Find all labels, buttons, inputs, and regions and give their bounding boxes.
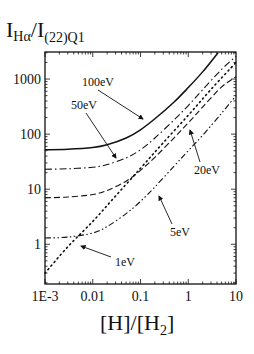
series-20ev (45, 77, 236, 198)
annotation-arrow (159, 196, 172, 224)
annotation-arrow (98, 90, 143, 119)
y-axis-label: IHα/I(22)Q1 (6, 17, 85, 46)
y-tick-label: 1000 (13, 72, 41, 87)
annotation-20ev: 20eV (194, 163, 220, 177)
svg-text:IHα/I(22)Q1: IHα/I(22)Q1 (6, 17, 85, 46)
y-tick-label: 1 (34, 237, 41, 252)
annotation-50ev: 50eV (71, 98, 97, 112)
series-50ev (45, 56, 236, 169)
annotation-arrow (81, 246, 111, 257)
x-tick-label: 1E-3 (31, 289, 58, 304)
y-tick-label: 100 (20, 127, 41, 142)
y-tick-label: 10 (27, 182, 41, 197)
annotation-5ev: 5eV (170, 225, 190, 239)
svg-text:[H]/[H2]: [H]/[H2] (100, 310, 174, 338)
x-axis-ticks: 1E-30.010.1110 (31, 52, 243, 304)
x-tick-label: 0.1 (132, 289, 150, 304)
chart: IHα/I(22)Q1 1E-30.010.1110 1101001000 10… (0, 0, 254, 354)
x-tick-label: 10 (229, 289, 243, 304)
x-tick-label: 0.01 (81, 289, 106, 304)
annotation-arrow (190, 130, 200, 162)
x-tick-label: 1 (185, 289, 192, 304)
curve-annotations: 100eV50eV20eV5eV1eV (71, 75, 220, 269)
x-axis-label: [H]/[H2] (100, 310, 174, 338)
annotation-1ev: 1eV (115, 255, 135, 269)
annotation-arrow (86, 113, 116, 158)
annotation-100ev: 100eV (82, 75, 114, 89)
